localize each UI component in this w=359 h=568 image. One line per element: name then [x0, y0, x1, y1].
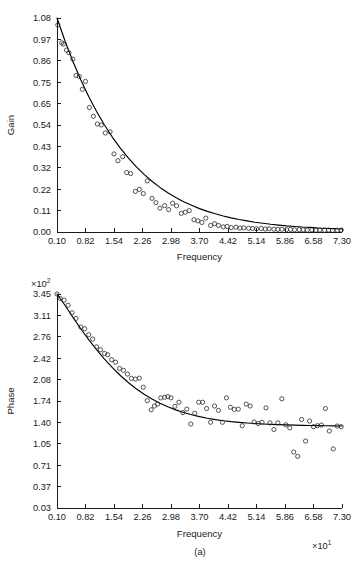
x-tick-label: 1.54 — [105, 236, 123, 246]
x-tick-label: 3.70 — [190, 512, 208, 522]
figure-root: 0.000.110.220.320.430.540.650.750.860.97… — [0, 0, 359, 568]
y-axis-title: Gain — [5, 115, 16, 135]
y-tick-label: 1.08 — [33, 13, 51, 23]
x-tick-label: 0.10 — [48, 512, 66, 522]
x-tick-label: 2.26 — [133, 236, 151, 246]
x-tick-label: 4.42 — [219, 236, 237, 246]
x-tick-label: 7.30 — [333, 512, 351, 522]
y-tick-label: 3.45 — [33, 289, 51, 299]
y-tick-label: 0.54 — [33, 120, 51, 130]
figure-background — [0, 0, 359, 568]
y-axis-title: Phase — [5, 387, 16, 414]
x-tick-label: 0.82 — [76, 236, 94, 246]
x-tick-label: 1.54 — [105, 512, 123, 522]
x-tick-label: 2.26 — [133, 512, 151, 522]
x-axis-title: Frequency — [177, 528, 223, 539]
x-tick-label: 5.14 — [247, 236, 265, 246]
figure-caption: (a) — [194, 547, 205, 557]
x-tick-label: 0.10 — [48, 236, 66, 246]
x-tick-label: 5.86 — [276, 236, 294, 246]
y-tick-label: 2.08 — [33, 375, 51, 385]
y-tick-label: 1.05 — [33, 439, 51, 449]
x-tick-label: 6.58 — [304, 236, 322, 246]
y-tick-label: 0.11 — [34, 206, 51, 216]
x-tick-label: 5.86 — [276, 512, 294, 522]
y-tick-label: 1.74 — [33, 396, 51, 406]
x-tick-label: 4.42 — [219, 512, 237, 522]
y-tick-label: 0.43 — [33, 142, 51, 152]
x-tick-label: 5.14 — [247, 512, 265, 522]
x-tick-label: 7.30 — [333, 236, 351, 246]
y-tick-label: 1.40 — [33, 418, 51, 428]
y-tick-label: 0.32 — [33, 163, 51, 173]
y-tick-label: 0.71 — [33, 461, 51, 471]
y-tick-label: 0.86 — [33, 56, 51, 66]
scientific-figure: 0.000.110.220.320.430.540.650.750.860.97… — [0, 0, 359, 568]
x-tick-label: 2.98 — [162, 236, 180, 246]
x-tick-label: 0.82 — [76, 512, 94, 522]
y-tick-label: 0.97 — [33, 35, 51, 45]
y-tick-label: 2.76 — [33, 332, 51, 342]
y-tick-label: 3.11 — [34, 311, 51, 321]
y-tick-label: 0.75 — [33, 78, 51, 88]
x-axis-title: Frequency — [177, 251, 223, 262]
y-tick-label: 0.37 — [33, 482, 51, 492]
y-tick-label: 2.42 — [33, 354, 51, 364]
x-tick-label: 6.58 — [304, 512, 322, 522]
y-tick-label: 0.65 — [33, 99, 51, 109]
y-tick-label: 0.22 — [33, 185, 51, 195]
x-tick-label: 2.98 — [162, 512, 180, 522]
x-tick-label: 3.70 — [190, 236, 208, 246]
